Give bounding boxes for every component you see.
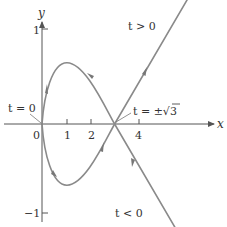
x-axis: 0 1 2 4 x	[4, 117, 224, 142]
arrow-loop-bottom-right	[100, 142, 104, 152]
x-tick-label-4: 4	[135, 129, 142, 142]
label-t-zero: t = 0	[8, 102, 36, 115]
annotations: t = 0 t = ±√3 t > 0 t < 0	[8, 20, 180, 220]
x-axis-label: x	[217, 117, 224, 131]
label-t-negative: t < 0	[115, 207, 143, 220]
label-t-sqrt3-radicand: 3	[170, 105, 177, 118]
x-tick-label-0: 0	[33, 129, 40, 142]
label-t-sqrt3: t = ±√3	[133, 105, 177, 118]
y-axis-label: y	[37, 6, 45, 20]
direction-arrows	[45, 67, 147, 177]
label-t-positive: t > 0	[128, 20, 156, 33]
leader-t-zero	[30, 114, 41, 123]
x-tick-label-2: 2	[88, 129, 95, 142]
x-tick-label-1: 1	[64, 129, 71, 142]
label-t-sqrt3-prefix: t = ±	[133, 105, 163, 118]
y-tick-label-neg1: −1	[24, 207, 40, 220]
parametric-curve-diagram: 0 1 2 4 x y 1 −1 t = 0 t = ±√3 t > 0 t <…	[0, 0, 227, 227]
y-tick-label-1: 1	[33, 24, 40, 37]
